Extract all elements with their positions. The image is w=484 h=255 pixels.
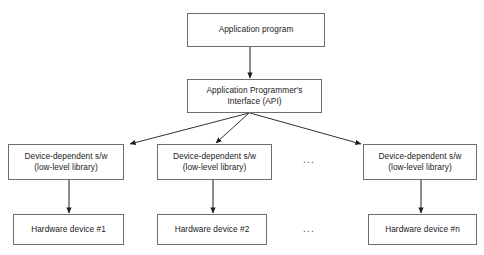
ellipsis-devices-row: ... bbox=[303, 155, 315, 165]
api-layering-diagram: Application program Application Programm… bbox=[0, 0, 484, 255]
arrow-api-to-device-n bbox=[250, 113, 361, 144]
device-dependent-sw-label-n-line-2: (low-level library) bbox=[388, 162, 452, 174]
device-dependent-sw-label-1-line-1: Device-dependent s/w bbox=[24, 151, 107, 163]
device-dependent-sw-node-1: Device-dependent s/w (low-level library) bbox=[8, 144, 124, 180]
application-program-label: Application program bbox=[219, 24, 294, 36]
device-dependent-sw-node-n: Device-dependent s/w (low-level library) bbox=[363, 144, 477, 180]
arrow-api-to-device-1 bbox=[130, 113, 249, 144]
api-node: Application Programmer's Interface (API) bbox=[187, 79, 322, 113]
hardware-device-label-1: Hardware device #1 bbox=[31, 224, 106, 236]
device-dependent-sw-label-2-line-1: Device-dependent s/w bbox=[173, 151, 256, 163]
hardware-device-node-2: Hardware device #2 bbox=[157, 214, 267, 245]
api-label-line-2: Interface (API) bbox=[227, 96, 281, 108]
api-label-line-1: Application Programmer's bbox=[207, 85, 303, 97]
device-dependent-sw-label-1-line-2: (low-level library) bbox=[34, 162, 98, 174]
hardware-device-node-n: Hardware device #n bbox=[368, 214, 477, 245]
hardware-device-node-1: Hardware device #1 bbox=[13, 214, 124, 245]
ellipsis-hardware-row: ... bbox=[303, 224, 315, 234]
device-dependent-sw-label-n-line-1: Device-dependent s/w bbox=[378, 151, 461, 163]
application-program-node: Application program bbox=[187, 13, 325, 47]
device-dependent-sw-node-2: Device-dependent s/w (low-level library) bbox=[157, 144, 272, 180]
hardware-device-label-n: Hardware device #n bbox=[385, 224, 460, 236]
device-dependent-sw-label-2-line-2: (low-level library) bbox=[183, 162, 247, 174]
hardware-device-label-2: Hardware device #2 bbox=[175, 224, 250, 236]
